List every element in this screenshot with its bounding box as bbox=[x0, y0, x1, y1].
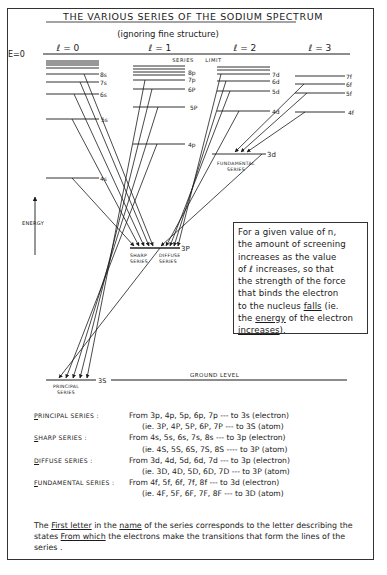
level-5d: 5d bbox=[272, 88, 280, 95]
principal-series-row: PRINCIPAL SERIES : From 3p, 4p, 5p, 6p, … bbox=[34, 410, 374, 421]
fundamental-series-label-2: SERIES bbox=[227, 167, 245, 172]
sharp-series-label-1: SHARP bbox=[130, 253, 147, 258]
atom-transitions: (ie. 3D, 4D, 5D, 6D, 7D --- to 3P (atom) bbox=[129, 466, 374, 477]
sharp-series-label-2: SERIES bbox=[130, 259, 148, 264]
level-7f: 7f bbox=[346, 73, 353, 80]
level-5f: 5f bbox=[346, 90, 353, 97]
sharp-series-row: SHARP SERIES : From 4s, 5s, 6s, 7s, 8s -… bbox=[34, 432, 374, 443]
series-name: DIFFUSE SERIES : bbox=[34, 455, 129, 466]
series-table: PRINCIPAL SERIES : From 3p, 4p, 5p, 6p, … bbox=[34, 410, 374, 500]
ground-level-label: GROUND LEVEL bbox=[190, 372, 240, 378]
column-label-l1: ℓ = 1 bbox=[148, 43, 172, 53]
energy-level-diagram: THE VARIOUS SERIES OF THE SODIUM SPECTRU… bbox=[0, 0, 387, 410]
level-7s: 7s bbox=[100, 79, 107, 86]
level-6s: 6s bbox=[100, 91, 107, 98]
level-7p: 7p bbox=[188, 76, 196, 84]
level-3s: 3S bbox=[98, 377, 106, 385]
level-4f: 4f bbox=[348, 109, 355, 116]
note-line: For a given value of n, bbox=[238, 226, 363, 238]
level-8s: 8s bbox=[100, 71, 107, 78]
electron-transitions: From 4f, 5f, 6f, 7f, 8f --- to 3d (elect… bbox=[129, 477, 374, 488]
level-3p: 3P bbox=[181, 245, 190, 253]
atom-transitions: (ie. 4S, 5S, 6S, 7S, 8S ---- to 3P (atom… bbox=[129, 444, 374, 455]
note-line: the strength of the force bbox=[238, 275, 363, 287]
diffuse-series-label-1: DIFFUSE bbox=[159, 253, 180, 258]
screening-note-box: For a given value of n, the amount of sc… bbox=[233, 222, 368, 334]
diffuse-series-label-2: SERIES bbox=[159, 259, 177, 264]
column-label-l2: ℓ = 2 bbox=[233, 43, 257, 53]
level-6p: 6P bbox=[188, 86, 196, 93]
fundamental-series-atom-row: (ie. 4F, 5F, 6F, 7F, 8F --- to 3D (atom) bbox=[34, 488, 374, 499]
principal-series-transitions bbox=[59, 80, 160, 378]
series-name: FUNDAMENTAL SERIES : bbox=[34, 477, 129, 488]
diffuse-series-transitions bbox=[161, 74, 262, 246]
electron-transitions: From 3d, 4d, 5d, 6d, 7d --- to 3p (elect… bbox=[129, 455, 374, 466]
diffuse-series-row: DIFFUSE SERIES : From 3d, 4d, 5d, 6d, 7d… bbox=[34, 455, 374, 466]
footer-note: The First letter in the name of the seri… bbox=[34, 520, 370, 554]
diagram-subtitle: (ignoring fine structure) bbox=[117, 29, 219, 39]
level-6d: 6d bbox=[272, 78, 280, 85]
note-line: increases as the value bbox=[238, 251, 363, 263]
principal-series-label-1: PRINCIPAL bbox=[53, 384, 79, 389]
level-4p: 4p bbox=[188, 141, 196, 149]
atom-transitions: (ie. 3P, 4P, 5P, 6P, 7P --- to 3S (atom) bbox=[129, 421, 374, 432]
note-line: of ℓ increases, so that bbox=[238, 263, 363, 275]
principal-series-atom-row: (ie. 3P, 4P, 5P, 6P, 7P --- to 3S (atom) bbox=[34, 421, 374, 432]
principal-series-label-2: SERIES bbox=[57, 390, 75, 395]
column-label-l3: ℓ = 3 bbox=[308, 43, 332, 53]
note-line: the amount of screening bbox=[238, 238, 363, 250]
series-limit-label: SERIES LIMIT bbox=[172, 57, 222, 63]
column-label-l0: ℓ = 0 bbox=[56, 43, 80, 53]
note-line: to the nucleus falls (ie. bbox=[238, 300, 363, 312]
note-line: increases). bbox=[238, 324, 363, 336]
series-name: PRINCIPAL SERIES : bbox=[34, 410, 129, 421]
level-5p: 5P bbox=[190, 104, 198, 111]
level-6f: 6f bbox=[346, 81, 353, 88]
electron-transitions: From 4s, 5s, 6s, 7s, 8s --- to 3p (elect… bbox=[129, 432, 374, 443]
energy-zero-label: E=0 bbox=[8, 50, 25, 59]
note-line: that binds the electron bbox=[238, 287, 363, 299]
fundamental-series-row: FUNDAMENTAL SERIES : From 4f, 5f, 6f, 7f… bbox=[34, 477, 374, 488]
level-7d: 7d bbox=[272, 71, 280, 78]
electron-transitions: From 3p, 4p, 5p, 6p, 7p --- to 3s (elect… bbox=[129, 410, 374, 421]
d-levels bbox=[212, 67, 270, 154]
fundamental-series-transitions bbox=[235, 84, 307, 152]
diagram-title: THE VARIOUS SERIES OF THE SODIUM SPECTRU… bbox=[62, 11, 323, 22]
atom-transitions: (ie. 4F, 5F, 6F, 7F, 8F --- to 3D (atom) bbox=[129, 488, 374, 499]
note-line: the energy of the electron bbox=[238, 312, 363, 324]
sharp-series-atom-row: (ie. 4S, 5S, 6S, 7S, 8S ---- to 3P (atom… bbox=[34, 444, 374, 455]
series-name: SHARP SERIES : bbox=[34, 432, 129, 443]
diffuse-series-atom-row: (ie. 3D, 4D, 5D, 6D, 7D --- to 3P (atom) bbox=[34, 466, 374, 477]
energy-axis-label: ENERGY bbox=[22, 220, 45, 226]
level-3d: 3d bbox=[267, 151, 276, 159]
f-levels bbox=[295, 76, 345, 112]
